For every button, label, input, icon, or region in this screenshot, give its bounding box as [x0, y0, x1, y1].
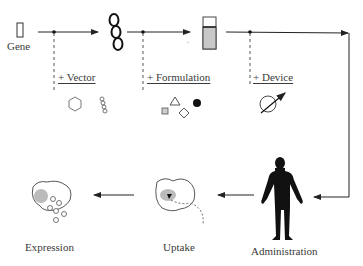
vial-icon: [203, 17, 216, 49]
gene-rectangle-icon: [17, 23, 23, 37]
formulation-addition-label: + Formulation: [147, 71, 210, 83]
cell-uptake-icon: [156, 179, 203, 225]
svg-text:+: +: [186, 40, 190, 46]
human-figure-icon: [261, 157, 303, 240]
filled-circle-icon: [193, 99, 201, 107]
expression-label: Expression: [25, 241, 74, 253]
triangle-icon: [170, 97, 180, 105]
gene-label: Gene: [7, 40, 30, 52]
circle-arrow-device-icon: [260, 93, 285, 113]
square-icon: [162, 108, 168, 114]
uptake-label: Uptake: [163, 241, 195, 253]
dna-coil-icon: [110, 14, 123, 50]
diamond-icon: [179, 108, 189, 118]
cell-expression-icon: [32, 181, 71, 222]
arrow-formulation-to-device: [226, 32, 348, 33]
hexagon-icon: [69, 97, 81, 111]
administration-label: Administration: [251, 245, 318, 257]
device-addition-label: + Device: [253, 71, 293, 83]
dna-chain-icon: [100, 97, 107, 113]
vector-addition-label: + Vector: [58, 71, 95, 83]
diagram-canvas: +: [0, 0, 363, 266]
